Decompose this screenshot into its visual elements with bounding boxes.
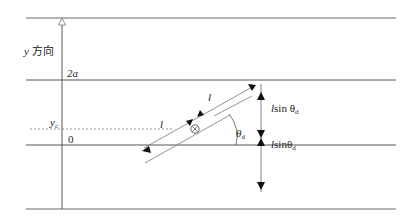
arrow-top-end-icon (248, 84, 256, 91)
arrow-vert-mid-up-icon (257, 138, 265, 146)
lsin-lower-sub: d (292, 144, 296, 152)
l-upper-label: l (208, 92, 211, 103)
lsin-upper-text: sin θ (274, 102, 295, 114)
top-level-label: 2a (67, 68, 78, 79)
origin-label: 0 (68, 134, 74, 145)
y-axis-label: y 方向 (24, 46, 54, 57)
yc-label: yc (50, 117, 58, 130)
lsin-upper-label: lsin θd (271, 103, 298, 116)
diagram-canvas (0, 0, 415, 224)
lsin-lower-text: sinθ (274, 138, 292, 150)
theta-label: θd (236, 128, 245, 141)
arrow-vert-top-icon (257, 92, 265, 100)
y-axis-var: y (24, 45, 29, 57)
arrow-mid-down-icon (186, 119, 193, 126)
y-axis-arrow-icon (59, 18, 66, 25)
droplet-axis-line-upper (214, 96, 252, 116)
theta-sub: d (241, 133, 245, 141)
yc-sub: c (55, 122, 58, 130)
arrow-vert-mid-down-icon (257, 130, 265, 138)
arrow-mid-up-icon (197, 110, 204, 117)
l-lower-label: l (160, 119, 163, 130)
lsin-upper-sub: d (295, 108, 299, 116)
y-axis-text: 方向 (32, 45, 54, 57)
lsin-lower-label: lsinθd (271, 139, 296, 152)
arrow-vert-bottom-icon (257, 182, 265, 190)
